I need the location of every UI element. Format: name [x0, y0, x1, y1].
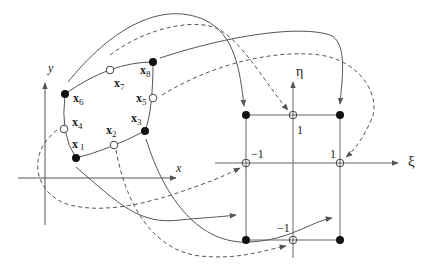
eta-neg-tick: −1 — [277, 221, 290, 235]
arrow-x1-to-bl — [76, 167, 236, 221]
y-axis-label: y — [47, 61, 54, 75]
arrow-x3-to-br — [146, 139, 332, 242]
arrow-x8-to-tr — [160, 31, 343, 104]
label-x1: x1 — [72, 137, 85, 152]
label-x2: x2 — [106, 123, 117, 139]
element-mapping-diagram: y x — [0, 0, 429, 269]
label-x8: x8 — [140, 63, 151, 79]
node-x8 — [149, 58, 157, 66]
node-x4 — [60, 125, 68, 133]
node-x5 — [149, 94, 157, 102]
eta-axis-label: η — [296, 64, 303, 79]
ref-node-bottom-right — [336, 236, 344, 244]
ref-node-top-left — [242, 111, 250, 119]
physical-axes: y x — [18, 61, 182, 225]
label-x5: x5 — [136, 91, 147, 107]
ref-node-bottom-left — [242, 236, 250, 244]
label-x7: x7 — [114, 76, 125, 92]
eta-pos-tick: 1 — [297, 123, 303, 137]
xi-pos-tick: 1 — [330, 147, 336, 161]
label-x3: x3 — [131, 111, 142, 127]
node-x2 — [110, 141, 118, 149]
node-x6 — [61, 90, 69, 98]
node-x3 — [141, 127, 149, 135]
node-x7 — [106, 66, 114, 74]
label-x4: x4 — [72, 115, 83, 131]
physical-node-labels: x1 x2 x3 x4 x5 x6 x7 x8 — [72, 63, 151, 152]
ref-node-top-right — [336, 111, 344, 119]
x-axis-label: x — [175, 161, 182, 175]
label-x6: x6 — [73, 91, 84, 107]
xi-axis-label: ξ — [408, 153, 415, 169]
xi-neg-tick: −1 — [251, 147, 264, 161]
node-x1 — [72, 154, 80, 162]
reference-element: ξ η 1 −1 1 −1 — [215, 64, 415, 258]
